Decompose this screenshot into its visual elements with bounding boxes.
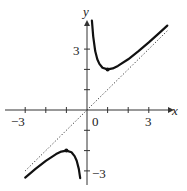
local-max-point [64,149,68,153]
local-min-point [106,67,110,71]
x-tick-label-zero: 0 [92,114,99,129]
function-plot: x y −3 0 3 3 −3 [0,0,187,191]
x-tick-label-neg3: −3 [11,114,25,129]
x-axis-label: x [171,103,178,118]
y-tick-label-pos3: 3 [73,43,80,58]
y-axis-label: y [81,4,89,19]
curve-left-branch [25,151,80,179]
y-tick-label-neg3: −3 [92,166,106,181]
x-tick-label-pos3: 3 [145,114,152,129]
y-axis-arrow-icon [84,20,90,26]
curve-right-branch [92,21,167,70]
